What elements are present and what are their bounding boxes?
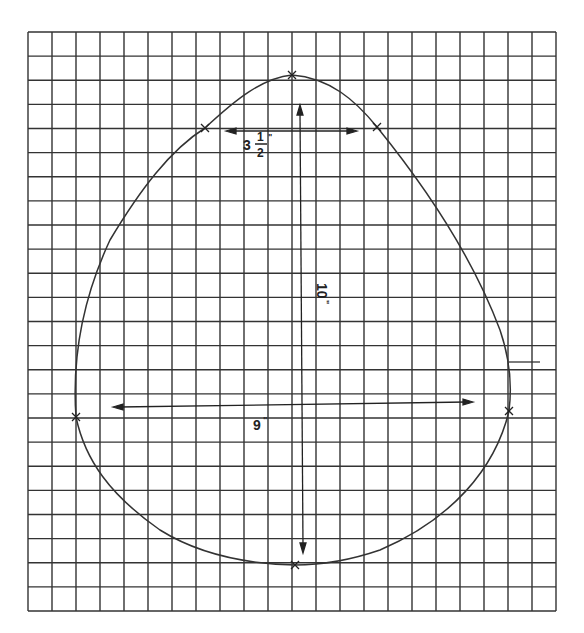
height-value: 10	[314, 283, 330, 299]
grid-paper	[28, 32, 556, 611]
width-unit: "	[263, 415, 267, 425]
marker-upper-right	[373, 123, 381, 131]
width-label: 9 "	[253, 415, 267, 433]
height-arrow	[297, 105, 306, 553]
height-unit: "	[321, 300, 331, 304]
top-width-whole: 3	[243, 137, 251, 153]
top-width-numerator: 1	[257, 130, 264, 144]
width-value: 9	[253, 417, 261, 433]
top-width-unit: "	[268, 132, 272, 142]
pattern-diagram: 3 1 2 " 10 " 9 "	[0, 0, 584, 633]
top-width-denominator: 2	[257, 146, 264, 160]
width-arrow	[113, 399, 473, 410]
